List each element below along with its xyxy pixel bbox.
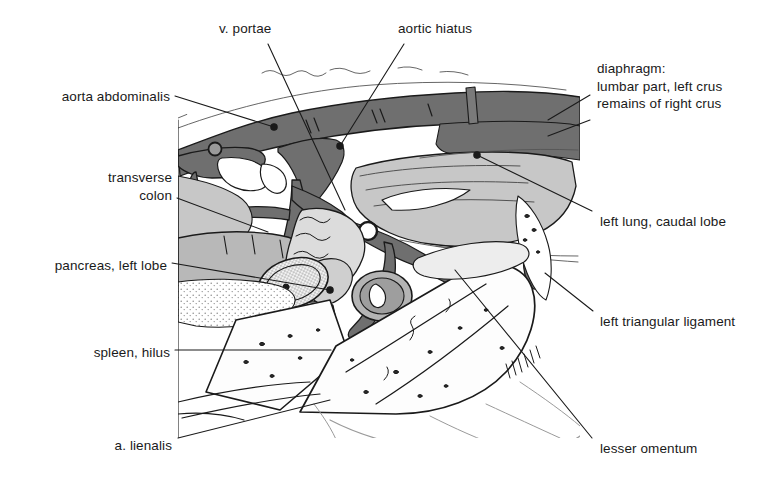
label-transverse-colon: transverse colon (0, 169, 172, 204)
label-left-lung-caudal-lobe: left lung, caudal lobe (600, 213, 726, 231)
label-a-lienalis: a. lienalis (0, 437, 172, 455)
label-left-triangular-ligament: left triangular ligament (600, 313, 735, 331)
label-lesser-omentum: lesser omentum (600, 440, 697, 458)
label-spleen-hilus: spleen, hilus (0, 344, 170, 362)
left-lobe-sliver (260, 164, 286, 193)
figure-page: v. portae aortic hiatus aorta abdominali… (0, 0, 773, 482)
label-diaphragm-block: diaphragm: lumbar part, left crus remain… (597, 60, 722, 113)
label-v-portae: v. portae (219, 20, 271, 38)
label-aorta-abdominalis: aorta abdominalis (0, 88, 170, 106)
abdominal-wall-arc (330, 420, 580, 454)
label-pancreas-left-lobe: pancreas, left lobe (0, 257, 167, 275)
label-aortic-hiatus: aortic hiatus (398, 20, 472, 38)
